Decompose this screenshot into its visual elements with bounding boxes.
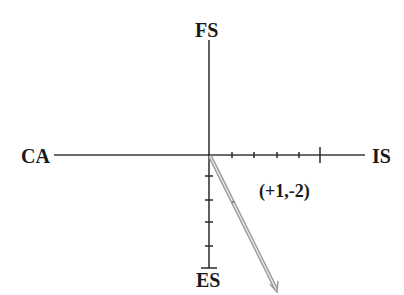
es-axis-label: ES — [196, 270, 220, 290]
compass-diagram: FS ES CA IS (+1,-2) — [0, 0, 404, 295]
fs-axis-label: FS — [195, 20, 218, 40]
ca-axis-label: CA — [21, 146, 50, 166]
axes-plot — [0, 0, 404, 295]
is-axis-label: IS — [372, 146, 391, 166]
vector-coordinate-label: (+1,-2) — [259, 182, 310, 200]
